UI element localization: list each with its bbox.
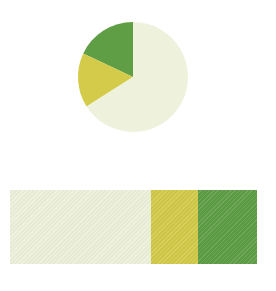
bar-segment: [10, 190, 151, 264]
stacked-bar-chart: [10, 190, 257, 264]
bar-segment: [151, 190, 198, 264]
pie-chart: [0, 0, 276, 150]
bar-segment: [198, 190, 257, 264]
